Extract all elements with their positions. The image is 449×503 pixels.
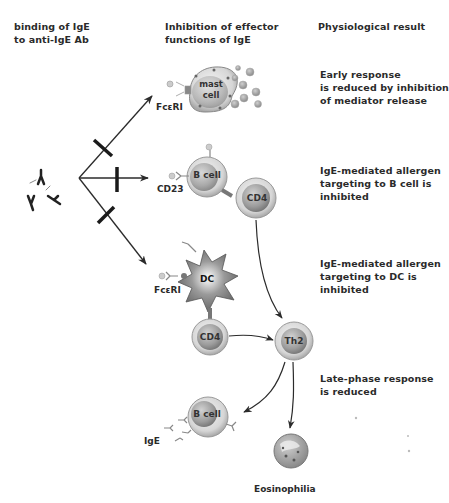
result-early-response: Early response is reduced by inhibition … (320, 68, 449, 107)
eosinophilia-label: Eosinophilia (254, 484, 316, 494)
cd23-label: CD23 (157, 184, 184, 194)
ige-anti-ige-complex-icon (28, 170, 60, 210)
fcer1-dc-label: FcεRI (154, 285, 181, 295)
ige-label: IgE (144, 436, 160, 446)
th2-label: Th2 (285, 336, 304, 346)
header-inhibition: Inhibition of effector functions of IgE (165, 20, 278, 46)
mast-cell-label: mast cell (199, 79, 223, 101)
header-physiological-result: Physiological result (318, 20, 425, 33)
background-specks (355, 417, 410, 452)
b-cell-bottom-label: B cell (193, 409, 221, 419)
fcer1-top-label: FcεRI (156, 102, 183, 112)
dc-label: DC (200, 274, 214, 284)
result-dc-targeting: IgE-mediated allergen targeting to DC is… (320, 257, 441, 296)
eosinophil-icon (274, 434, 308, 468)
b-cell-top-label: B cell (193, 170, 221, 180)
free-ige-icon (164, 417, 191, 441)
result-late-phase: Late-phase response is reduced (320, 372, 434, 398)
cd4-top-label: CD4 (247, 193, 267, 203)
cd4-bottom-label: CD4 (200, 332, 220, 342)
dendritic-cell-icon (159, 242, 238, 322)
header-binding: binding of IgE to anti-IgE Ab (14, 20, 90, 46)
flow-arrows (229, 220, 294, 428)
block-bars (94, 140, 117, 223)
result-b-cell-targeting: IgE-mediated allergen targeting to B cel… (320, 164, 441, 203)
